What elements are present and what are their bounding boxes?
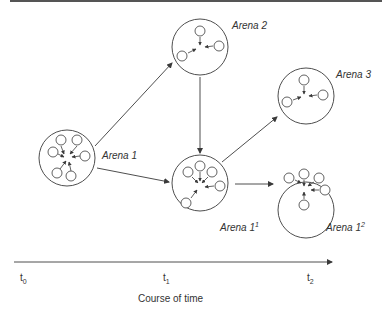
arena-label: Arena 11 <box>220 222 259 233</box>
influence-arrow <box>192 177 198 183</box>
member-node <box>299 200 309 210</box>
influence-arrow <box>205 186 214 187</box>
member-node <box>318 90 328 100</box>
member-node <box>52 168 62 178</box>
transitions <box>95 63 277 184</box>
arena-label-text: Arena 3 <box>336 69 371 80</box>
influence-arrow <box>295 180 301 183</box>
member-node <box>207 167 217 177</box>
member-node <box>80 151 90 161</box>
member-node <box>299 169 309 179</box>
member-node <box>66 171 76 181</box>
time-tick-label: t0 <box>20 272 27 283</box>
time-tick-label: t2 <box>307 272 314 283</box>
member-node <box>314 173 324 183</box>
arena-label: Arena 2 <box>232 20 267 31</box>
arena-arena2 <box>172 19 228 75</box>
member-node <box>320 185 330 195</box>
arena-label: Arena 3 <box>336 69 371 80</box>
member-node <box>195 26 205 36</box>
arena-label-text: Arena 2 <box>232 20 267 31</box>
influence-arrow <box>205 46 213 47</box>
axis-title: Course of time <box>138 293 203 304</box>
arena-label: Arena 1 <box>102 150 137 161</box>
member-node <box>48 147 58 157</box>
time-tick-label: t1 <box>163 272 170 283</box>
transition-arrow <box>97 168 169 182</box>
member-node <box>183 167 193 177</box>
influence-arrow <box>72 156 80 157</box>
influence-arrow <box>70 146 77 154</box>
tick-subscript: 1 <box>166 278 170 285</box>
transition-arrow <box>95 63 172 146</box>
influence-arrow <box>202 177 208 183</box>
arena-arena1 <box>39 130 95 186</box>
arena-arena1_1 <box>172 155 228 211</box>
arena-arena3 <box>278 68 334 124</box>
arena-label-superscript: 2 <box>361 221 365 228</box>
arenas <box>39 19 334 238</box>
tick-subscript: 2 <box>310 278 314 285</box>
influence-arrow <box>309 95 317 96</box>
tick-subscript: 0 <box>23 278 27 285</box>
transition-arrow <box>222 117 277 162</box>
influence-arrow <box>69 162 71 171</box>
member-node <box>56 135 66 145</box>
arena-label-text: Arena 1 <box>102 150 137 161</box>
member-node <box>284 173 294 183</box>
diagram-canvas <box>0 0 382 313</box>
member-node <box>195 161 205 171</box>
member-node <box>72 135 82 145</box>
arena-label: Arena 12 <box>326 222 365 233</box>
member-node <box>282 97 292 107</box>
member-node <box>299 75 309 85</box>
member-node <box>214 41 224 51</box>
arena-label-superscript: 1 <box>255 221 259 228</box>
diagram-stage: Arena 1Arena 2Arena 11Arena 3Arena 12 t0… <box>0 0 382 313</box>
arena-label-text: Arena 1 <box>220 222 255 233</box>
member-node <box>177 51 187 61</box>
member-node <box>181 198 191 208</box>
influence-arrow <box>293 97 301 100</box>
influence-arrow <box>191 190 197 198</box>
influence-arrow <box>61 146 64 154</box>
member-node <box>215 181 225 191</box>
influence-arrow <box>60 161 66 169</box>
influence-arrow <box>58 154 64 157</box>
influence-arrow <box>188 49 196 53</box>
arena-label-text: Arena 1 <box>326 222 361 233</box>
